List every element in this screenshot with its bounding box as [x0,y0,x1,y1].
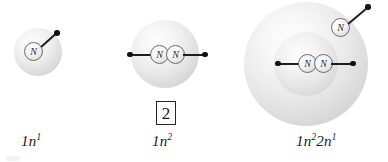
figure-canvas: N 1n1 N N 2 1n2 N N N 1n [0,0,388,162]
atom-label-1-sup: 1 [36,132,41,142]
electron-dot-3-outer [365,4,371,10]
electron-dot-3-right [350,61,356,67]
atom-label-2-base: 1 [152,133,160,149]
atom-label-3-base1: 1 [296,133,304,149]
atom-label-3-sup2: 1 [332,132,337,142]
electron-arm-2-left [130,54,152,56]
electron-dot-3-left [275,61,281,67]
atom-label-3-base2: 2 [316,133,324,149]
atom-label-1: 1n1 [21,132,41,150]
page-edge-artifact [6,156,20,161]
atom-label-2: 1n2 [152,132,172,150]
electron-arm-3-outer [347,8,366,25]
atom-label-1-base: 1 [21,133,29,149]
atom-label-3-n2: n [324,133,332,149]
nucleus-3c-outer-shell: N [331,18,350,37]
electron-arm-3-left [278,63,300,65]
electron-dot-2-right [202,52,208,58]
atom-label-2-sup: 2 [167,132,172,142]
atom-label-3: 1n22n1 [296,132,337,150]
electron-dot-1a [54,30,60,36]
count-badge: 2 [156,101,176,125]
electron-dot-2-left [127,52,133,58]
